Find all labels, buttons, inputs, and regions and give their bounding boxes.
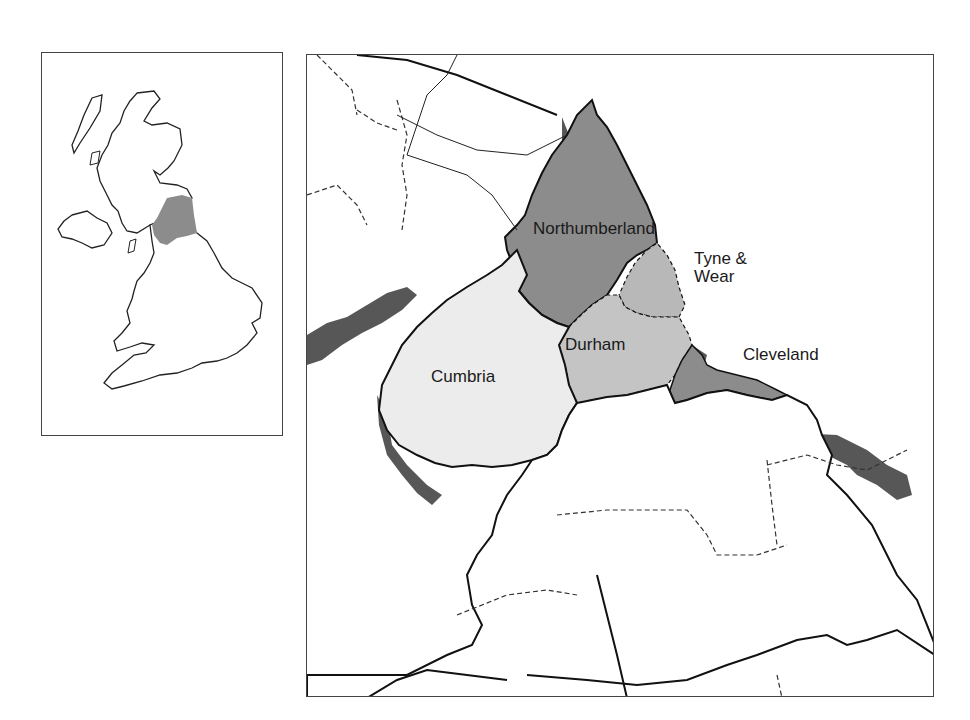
label-durham: Durham xyxy=(565,335,625,354)
label-northumberland: Northumberland xyxy=(533,219,655,238)
label-cleveland: Cleveland xyxy=(743,345,819,364)
north-england-map xyxy=(307,55,934,697)
label-tyne-wear-line1: Tyne & xyxy=(694,249,747,268)
inset-locator-map xyxy=(41,52,283,436)
label-cumbria: Cumbria xyxy=(431,367,495,386)
label-tyne-wear-line2: Wear xyxy=(694,267,734,286)
england-wales-shape xyxy=(104,213,262,389)
main-regional-map: Northumberland Tyne & Wear Cleveland Dur… xyxy=(306,54,934,697)
northern-ireland-shape xyxy=(58,211,112,248)
great-britain-outline xyxy=(42,53,284,437)
